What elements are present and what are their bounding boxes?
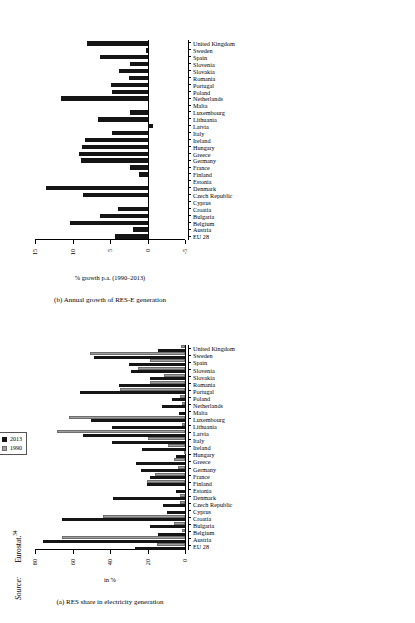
chart-b-category-tick xyxy=(188,236,191,237)
chart-a-bar xyxy=(174,522,185,525)
chart-a-category-label: Croatia xyxy=(193,516,211,522)
chart-b-bar xyxy=(70,221,147,225)
chart-a-bar xyxy=(167,511,185,514)
chart-b-category-tick xyxy=(188,187,191,188)
chart-a-bar xyxy=(43,540,185,543)
chart-a-ytick xyxy=(110,550,111,554)
chart-a-ytick-label: 0 xyxy=(182,559,188,562)
chart-b-category-label: Denmark xyxy=(193,186,216,192)
source-footnote-marker: 34 xyxy=(12,530,18,535)
chart-a-bar xyxy=(184,451,186,454)
chart-b-category-label: Austria xyxy=(193,227,211,233)
chart-a-bar xyxy=(80,391,185,394)
chart-a-category-tick xyxy=(188,482,191,483)
chart-a-bar xyxy=(94,356,185,359)
chart-a-bar xyxy=(90,352,185,355)
chart-b-category-label: Ireland xyxy=(193,138,211,144)
chart-b-category-label: Sweden xyxy=(193,48,213,54)
chart-b-category-label: Luxembourg xyxy=(193,110,225,116)
chart-b-category-tick xyxy=(188,98,191,99)
chart-b-category-tick xyxy=(188,153,191,154)
chart-a-category-label: Slovakia xyxy=(193,375,215,381)
source-label: Source: xyxy=(14,577,23,600)
chart-b-bar xyxy=(129,76,148,80)
chart-a-ytick xyxy=(148,550,149,554)
chart-b-category-label: Netherlands xyxy=(193,96,223,102)
chart-a-category-label: Denmark xyxy=(193,495,216,501)
chart-a-bar xyxy=(148,437,185,440)
chart-b-category-label: EU 28 xyxy=(193,234,209,240)
chart-a-bar xyxy=(155,473,185,476)
chart-b-category-tick xyxy=(188,208,191,209)
chart-a-ytick xyxy=(185,550,186,554)
chart-b-category-label: Bulgaria xyxy=(193,214,214,220)
chart-a-bar xyxy=(172,398,185,401)
chart-a-category-label: Portugal xyxy=(193,389,214,395)
chart-b-bar xyxy=(83,193,148,197)
chart-a-axis-title: in % xyxy=(104,576,116,583)
chart-b-bar xyxy=(146,48,148,52)
chart-a-bar xyxy=(103,515,186,518)
chart-a-bar xyxy=(158,533,185,536)
chart-a-ytick xyxy=(35,550,36,554)
chart-b-category-label: Poland xyxy=(193,90,210,96)
chart-b-category-tick xyxy=(188,56,191,57)
chart-a-category-label: Malta xyxy=(193,410,207,416)
chart-b-category-tick xyxy=(188,70,191,71)
chart-b-category-label: Cyprus xyxy=(193,200,211,206)
chart-a-legend-item: 2013 xyxy=(2,436,22,442)
chart-b-ytick xyxy=(110,240,111,244)
chart-b-category-tick xyxy=(188,229,191,230)
chart-a-category-tick xyxy=(188,426,191,427)
chart-b-category-tick xyxy=(188,91,191,92)
chart-a-bar xyxy=(163,504,185,507)
chart-a-category-label: Spain xyxy=(193,360,207,366)
chart-a-plot-area: 020406080in %EU 28AustriaBelgiumBulgaria… xyxy=(35,345,185,550)
chart-a-category-tick xyxy=(188,362,191,363)
chart-b-bar xyxy=(112,90,148,94)
chart-b-bar xyxy=(130,62,148,66)
chart-b-category-tick xyxy=(188,139,191,140)
chart-a-category-tick xyxy=(188,461,191,462)
chart-b-category-tick xyxy=(188,43,191,44)
chart-b-category-label: Slovenia xyxy=(193,62,215,68)
chart-a-category-label: Slovenia xyxy=(193,368,215,374)
chart-b-ytick-label: -5 xyxy=(182,249,188,254)
chart-a-bar xyxy=(150,525,185,528)
chart-b-bar xyxy=(98,117,148,121)
chart-b-category-label: Italy xyxy=(193,131,204,137)
chart-b-axis-title: % growth p.a. (1990–2013) xyxy=(75,274,145,281)
chart-a-category-label: Austria xyxy=(193,537,211,543)
chart-a-bar xyxy=(62,536,185,539)
chart-b-category-tick xyxy=(188,160,191,161)
chart-a-category-tick xyxy=(188,546,191,547)
chart-b-bar xyxy=(82,145,148,149)
chart-a-category-tick xyxy=(188,510,191,511)
chart-a-category-label: Germany xyxy=(193,467,216,473)
chart-a-category-label: Italy xyxy=(193,438,204,444)
chart-a-category-tick xyxy=(188,433,191,434)
chart-a-category-tick xyxy=(188,503,191,504)
chart-a-category-tick xyxy=(188,418,191,419)
chart-a-category-tick xyxy=(188,369,191,370)
chart-a-category-tick xyxy=(188,496,191,497)
chart-b-category-label: France xyxy=(193,165,210,171)
chart-a-bar xyxy=(112,427,185,430)
chart-b-category-tick xyxy=(188,167,191,168)
chart-a-bar xyxy=(131,370,185,373)
chart-b-category-label: Hungary xyxy=(193,145,215,151)
chart-a-bar xyxy=(83,434,185,437)
chart-a-category-tick xyxy=(188,539,191,540)
chart-b-category-label: Latvia xyxy=(193,124,209,130)
chart-a-baseline xyxy=(185,345,186,550)
chart-b-bar xyxy=(130,165,148,169)
chart-b-category-label: Romania xyxy=(193,76,215,82)
chart-a-bar xyxy=(91,419,185,422)
chart-a-bar xyxy=(141,469,185,472)
chart-b-bar xyxy=(112,131,147,135)
chart-b-category-label: Lithuania xyxy=(193,117,217,123)
chart-a-category-tick xyxy=(188,447,191,448)
chart-b-ytick-label: 0 xyxy=(144,249,150,252)
chart-a-category-label: EU 28 xyxy=(193,544,209,550)
chart-b-bar xyxy=(139,172,148,176)
